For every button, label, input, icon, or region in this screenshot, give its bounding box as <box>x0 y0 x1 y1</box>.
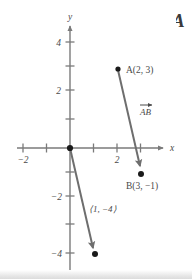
y-tick-label-4: 4 <box>56 38 61 48</box>
vector-component-form <box>70 148 93 248</box>
vector-diagram: −2 2 4 2 −2 −4 x y A(2, 3) B(3, −1) AB ⟨… <box>0 0 192 279</box>
y-axis-label: y <box>67 12 73 22</box>
bottom-shadow-band <box>0 270 192 279</box>
x-tick-label--2: −2 <box>17 155 28 165</box>
vector-ab-label-group: AB <box>139 105 152 117</box>
point-c <box>92 251 98 257</box>
vector-ab <box>118 70 140 166</box>
vector-ab-shaft <box>118 70 140 166</box>
vector-component-shaft <box>70 148 93 248</box>
point-origin <box>67 145 73 151</box>
point-b-label: B(3, −1) <box>126 181 158 192</box>
component-form-label: ⟨1, −4⟩ <box>89 204 117 214</box>
y-tick-label-2: 2 <box>56 86 61 96</box>
x-tick-label-2: 2 <box>115 155 120 165</box>
point-b <box>138 171 144 177</box>
point-a <box>115 66 120 71</box>
corner-letter-mark-text: A <box>176 8 185 34</box>
y-tick-label--2: −2 <box>51 192 62 202</box>
y-tick-label--4: −4 <box>51 249 62 259</box>
point-a-label-text: A(2, 3) <box>126 65 153 76</box>
corner-letter-mark: A <box>176 8 192 34</box>
vector-ab-label: AB <box>139 107 151 117</box>
x-axis-label: x <box>169 143 175 153</box>
point-a-label: A(2, 3) <box>126 65 153 76</box>
point-b-label-text: B(3, −1) <box>126 181 158 192</box>
